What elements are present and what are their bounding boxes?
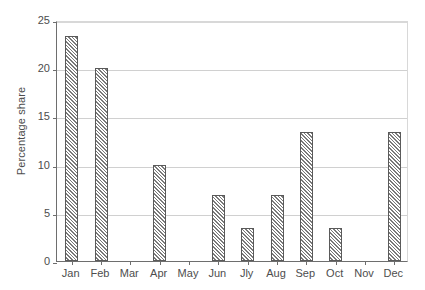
y-tick-15 [53,118,57,119]
gridline-5 [57,215,407,216]
x-tick-aug [277,261,278,265]
x-tick-oct [336,261,337,265]
x-tick-may [189,261,190,265]
y-tick-label-0: 0 [10,256,50,267]
y-tick-20 [53,70,57,71]
x-tick-jly [248,261,249,265]
y-tick-10 [53,167,57,168]
x-tick-apr [160,261,161,265]
y-tick-label-20: 20 [10,63,50,74]
bar-jun [212,195,225,261]
x-tick-jan [72,261,73,265]
y-axis-tick-labels: 0510152025 [6,21,50,262]
bar-sep [300,132,313,261]
y-tick-5 [53,215,57,216]
plot-area [56,21,408,262]
y-tick-label-15: 15 [10,111,50,122]
y-tick-label-5: 5 [10,208,50,219]
gridline-25 [57,22,407,23]
x-tick-dec [394,261,395,265]
y-tick-25 [53,22,57,23]
x-tick-mar [130,261,131,265]
bar-dec [388,132,401,261]
x-tick-nov [365,261,366,265]
x-tick-jun [218,261,219,265]
y-tick-label-25: 25 [10,15,50,26]
bar-apr [153,165,166,261]
bar-aug [271,195,284,261]
bar-chart-figure: Percentage share 0510152025 JanFebMarApr… [0,0,425,290]
gridline-10 [57,167,407,168]
x-tick-label-dec: Dec [376,267,410,279]
x-tick-sep [306,261,307,265]
bar-feb [95,68,108,261]
bar-jly [241,228,254,261]
y-tick-0 [53,263,57,264]
gridline-20 [57,70,407,71]
bar-oct [329,228,342,261]
gridline-15 [57,118,407,119]
bar-jan [65,36,78,261]
x-tick-feb [101,261,102,265]
y-tick-label-10: 10 [10,160,50,171]
